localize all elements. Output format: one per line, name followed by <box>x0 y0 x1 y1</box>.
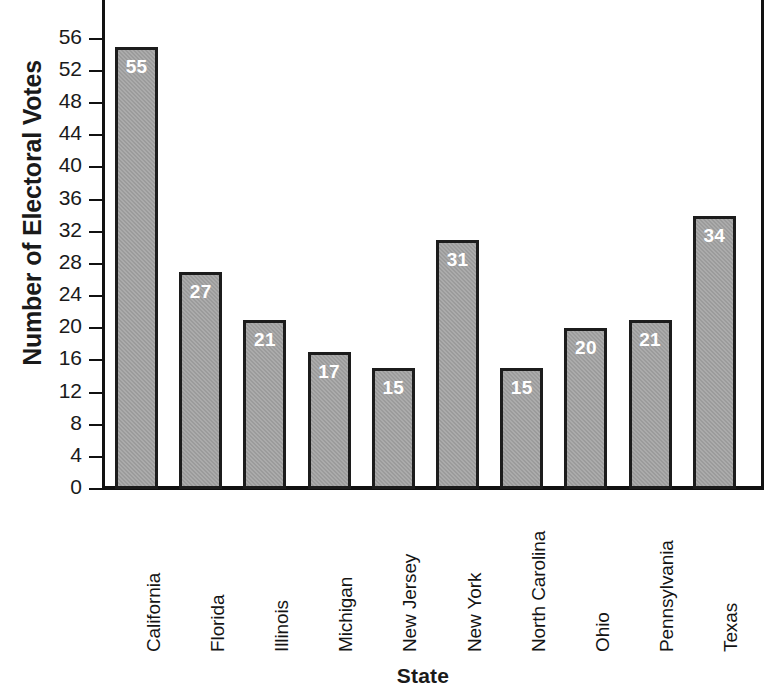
x-axis-category-label: Ohio <box>593 612 612 652</box>
x-axis-category-label: New Jersey <box>400 554 419 652</box>
bar[interactable]: 27 <box>179 272 222 489</box>
bar[interactable]: 21 <box>243 320 286 489</box>
bar[interactable]: 34 <box>693 216 736 489</box>
bar-value-label: 20 <box>567 338 604 358</box>
bar[interactable]: 15 <box>500 368 543 489</box>
bar-value-label: 17 <box>311 362 348 382</box>
bar[interactable]: 20 <box>564 328 607 489</box>
x-axis-category-label: Texas <box>721 603 740 652</box>
x-axis-category-label: Florida <box>208 595 227 652</box>
bar[interactable]: 31 <box>436 240 479 489</box>
x-axis-title-text: State <box>397 664 449 688</box>
bar[interactable]: 21 <box>629 320 672 489</box>
x-axis-category-label: New York <box>465 573 484 652</box>
x-axis-category-label: Illinois <box>272 600 291 652</box>
bar-chart: Number of Electoral Votes 04812162024283… <box>0 0 774 697</box>
bar-value-label: 15 <box>503 378 540 398</box>
bar[interactable]: 15 <box>372 368 415 489</box>
bar-value-label: 55 <box>118 57 155 77</box>
x-axis-category-label: Michigan <box>336 577 355 652</box>
x-axis-category-label: Pennsylvania <box>657 540 676 652</box>
bar[interactable]: 17 <box>308 352 351 489</box>
x-axis-category-label: California <box>144 573 163 652</box>
bar-value-label: 27 <box>182 282 219 302</box>
bar-value-label: 15 <box>375 378 412 398</box>
bar-value-label: 31 <box>439 250 476 270</box>
bar[interactable]: 55 <box>115 47 158 489</box>
bar-value-label: 21 <box>632 330 669 350</box>
bar-value-label: 34 <box>696 226 733 246</box>
x-axis-category-label: North Carolina <box>529 531 548 652</box>
bar-value-label: 21 <box>246 330 283 350</box>
x-axis-title: State <box>0 664 774 688</box>
